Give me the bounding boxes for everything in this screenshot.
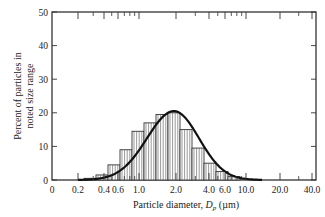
y-tick-label: 30 [39, 75, 49, 85]
x-tick-label: 0.2 [72, 185, 84, 195]
x-tick-label: 10.0 [238, 185, 255, 195]
x-axis-title: Particle diameter, Dp (µm) [133, 199, 239, 212]
y-tick-label: 50 [39, 8, 49, 18]
x-axis-tick-labels: 00.20.40.61.02.04.06.010.020.040.0 [50, 185, 321, 195]
y-tick-label: 20 [39, 108, 49, 118]
histogram-bars [84, 113, 240, 180]
y-tick-label: 40 [39, 41, 49, 51]
histogram-bar [156, 114, 168, 180]
x-tick-label: 6.0 [219, 185, 231, 195]
x-tick-label: 2.0 [170, 185, 182, 195]
y-tick-label: 0 [43, 176, 48, 186]
histogram-bar [192, 148, 204, 180]
histogram-bar [204, 163, 216, 180]
y-tick-label: 10 [39, 142, 49, 152]
x-tick-label: 0.4 [98, 185, 110, 195]
histogram-bar [144, 123, 156, 180]
histogram-bar [180, 130, 192, 180]
x-tick-label: 0 [50, 185, 55, 195]
x-tick-label: 40.0 [304, 185, 321, 195]
x-tick-label: 4.0 [203, 185, 215, 195]
y-axis-title-line2: noted size range [24, 63, 35, 129]
y-axis-tick-labels: 01020304050 [39, 8, 49, 186]
x-tick-label: 0.6 [112, 185, 124, 195]
x-tick-label: 20.0 [272, 185, 289, 195]
histogram-bar [168, 113, 180, 180]
histogram-chart: 01020304050 00.20.40.61.02.04.06.010.020… [0, 0, 325, 217]
x-tick-label: 1.0 [133, 185, 145, 195]
y-axis-title-line1: Percent of particles in [12, 52, 23, 139]
